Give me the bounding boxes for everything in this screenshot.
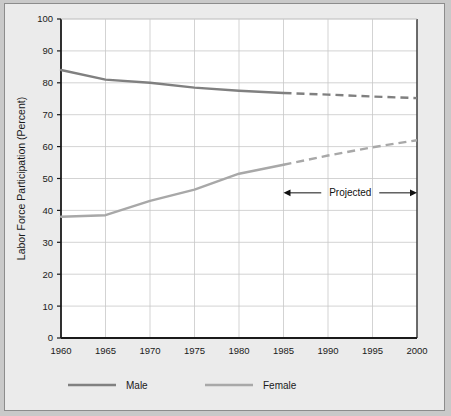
x-axis-tick-labels: 196019651970197519801985199019952000 bbox=[50, 345, 427, 356]
x-tick-label: 1975 bbox=[184, 345, 205, 356]
x-tick-label: 1990 bbox=[317, 345, 338, 356]
legend-label-female: Female bbox=[263, 380, 297, 391]
y-tick-label: 40 bbox=[42, 205, 53, 216]
x-tick-label: 2000 bbox=[406, 345, 427, 356]
y-tick-label: 0 bbox=[48, 332, 53, 343]
legend-label-male: Male bbox=[126, 380, 148, 391]
y-tick-label: 30 bbox=[42, 237, 53, 248]
x-tick-label: 1980 bbox=[228, 345, 249, 356]
y-tick-label: 80 bbox=[42, 77, 53, 88]
y-tick-label: 10 bbox=[42, 301, 53, 312]
projected-label: Projected bbox=[329, 187, 371, 198]
figure-panel: 0102030405060708090100 19601965197019751… bbox=[4, 3, 445, 411]
x-tick-label: 1985 bbox=[273, 345, 294, 356]
x-tick-label: 1970 bbox=[139, 345, 160, 356]
x-tick-label: 1960 bbox=[50, 345, 71, 356]
y-tick-label: 20 bbox=[42, 269, 53, 280]
y-tick-label: 100 bbox=[37, 13, 53, 24]
y-tick-label: 60 bbox=[42, 141, 53, 152]
x-tick-label: 1995 bbox=[362, 345, 383, 356]
labor-force-participation-chart: 0102030405060708090100 19601965197019751… bbox=[5, 4, 444, 410]
y-tick-label: 70 bbox=[42, 109, 53, 120]
y-axis-title: Labor Force Participation (Percent) bbox=[15, 97, 27, 260]
x-tick-label: 1965 bbox=[95, 345, 116, 356]
chart-legend: MaleFemale bbox=[68, 380, 297, 391]
y-axis-tick-labels: 0102030405060708090100 bbox=[37, 13, 53, 343]
y-tick-label: 50 bbox=[42, 173, 53, 184]
y-tick-label: 90 bbox=[42, 45, 53, 56]
